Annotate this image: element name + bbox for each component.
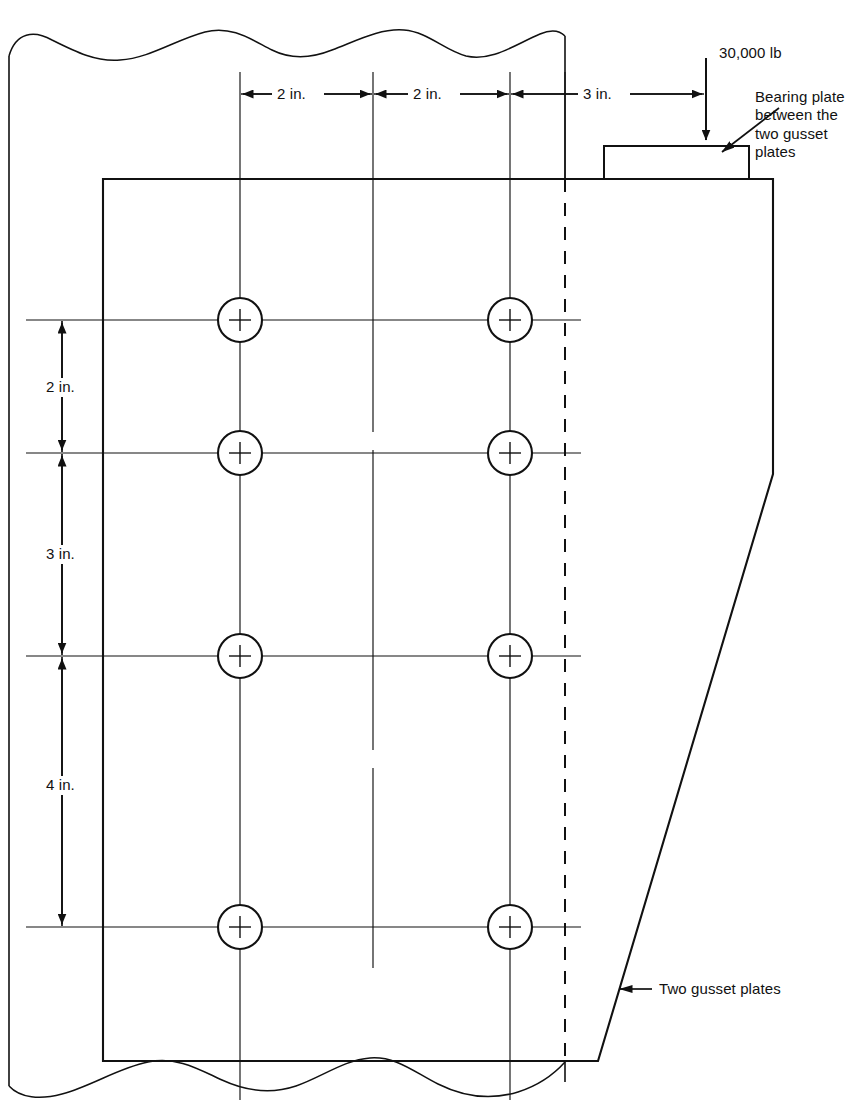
bearing-plate-label: Bearing plate between the two gusset pla… bbox=[755, 88, 859, 161]
bolt-crosshair-group bbox=[229, 309, 521, 938]
bolt-hole-group bbox=[218, 298, 532, 949]
bearing-plate-label-line2: between the bbox=[755, 106, 838, 123]
gusset-plate-outline bbox=[103, 179, 773, 1061]
dimension-label-v2: 3 in. bbox=[46, 545, 75, 563]
bearing-plate bbox=[604, 146, 749, 179]
dimension-label-h1: 2 in. bbox=[277, 85, 306, 103]
bearing-plate-label-line4: plates bbox=[755, 143, 796, 160]
bearing-plate-label-line1: Bearing plate bbox=[755, 88, 845, 105]
figure-canvas: 2 in. 2 in. 3 in. 2 in. 3 in. 4 in. 30,0… bbox=[0, 0, 859, 1115]
dimension-label-h3: 3 in. bbox=[583, 85, 612, 103]
main-member-outline bbox=[9, 30, 565, 1097]
dimension-label-v1: 2 in. bbox=[46, 378, 75, 396]
engineering-drawing-svg bbox=[0, 0, 859, 1115]
gusset-plate-label: Two gusset plates bbox=[659, 980, 781, 998]
bearing-plate-label-line3: two gusset bbox=[755, 125, 828, 142]
dimension-label-h2: 2 in. bbox=[413, 85, 442, 103]
dimension-label-v3: 4 in. bbox=[46, 776, 75, 794]
load-label: 30,000 lb bbox=[719, 44, 782, 62]
